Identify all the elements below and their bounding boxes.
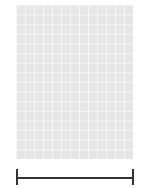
- knitting-chart-grid: [16, 5, 133, 159]
- scale-bar-right-cap: [132, 169, 134, 185]
- scale-bar: [16, 169, 134, 185]
- scale-bar-line: [16, 177, 134, 179]
